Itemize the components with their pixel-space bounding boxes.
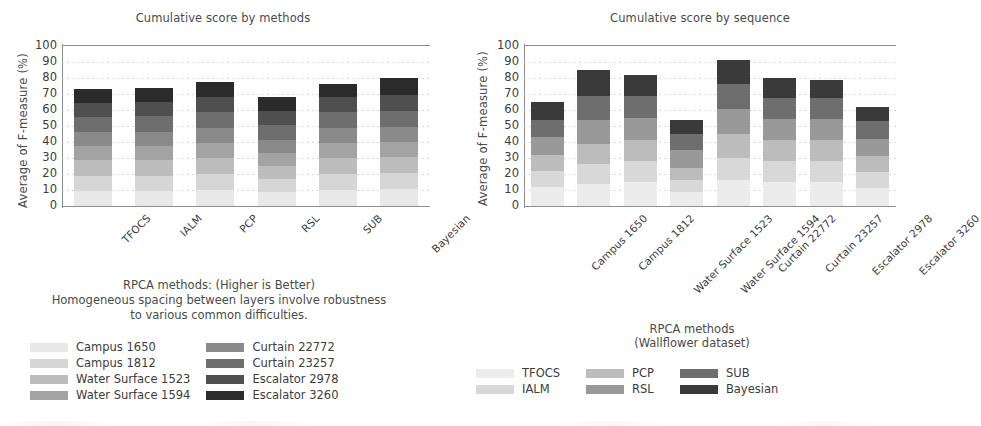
bar-segment: [577, 184, 610, 206]
left-plot-area: 0102030405060708090100TFOCSIALMPCPRSLSUB…: [62, 45, 430, 207]
bar-segment: [856, 172, 889, 188]
bar-segment: [135, 88, 173, 102]
right-y-axis-label: Average of F-measure (%): [476, 51, 490, 206]
legend-item: Water Surface 1594: [30, 388, 190, 402]
x-axis-tick-label: IALM: [177, 212, 204, 239]
y-axis-tick-label: 60: [42, 104, 57, 116]
y-axis-tick-label: 10: [42, 184, 57, 196]
legend-swatch: [206, 375, 244, 384]
bar-segment: [319, 84, 357, 98]
bar-segment: [670, 134, 703, 150]
right-legend-title-line-1: RPCA methods: [542, 322, 842, 336]
gridline: [62, 62, 430, 63]
bar-segment: [380, 189, 418, 206]
bar-segment: [670, 120, 703, 134]
bar-segment: [74, 146, 112, 160]
bar-segment: [135, 176, 173, 191]
bar-ialm: [135, 88, 173, 206]
legend-label: Campus 1650: [76, 340, 156, 354]
bar-segment: [196, 158, 234, 174]
bar-segment: [763, 182, 796, 206]
y-axis-tick-label: 0: [512, 200, 519, 212]
bar-segment: [135, 116, 173, 131]
bar-segment: [258, 179, 296, 193]
bar-segment: [717, 180, 750, 206]
y-axis-tick-label: 0: [50, 200, 57, 212]
legend-label: PCP: [632, 366, 654, 380]
bar-segment: [319, 112, 357, 127]
y-axis-tick-label: 10: [504, 184, 519, 196]
legend-label: Water Surface 1594: [76, 388, 190, 402]
bar-segment: [763, 161, 796, 182]
bar-segment: [258, 166, 296, 179]
bar-segment: [135, 132, 173, 146]
bar-curtain-23257: [763, 78, 796, 206]
legend-item: Curtain 22772: [206, 340, 338, 354]
legend-label: Bayesian: [726, 382, 778, 396]
bar-segment: [258, 97, 296, 111]
y-axis-tick-label: 100: [35, 40, 57, 52]
left-caption-line-1: RPCA methods: (Higher is Better): [24, 278, 414, 293]
bar-segment: [380, 157, 418, 173]
legend-item: Curtain 23257: [206, 356, 338, 370]
bar-segment: [717, 84, 750, 109]
bar-segment: [531, 137, 564, 155]
legend-item: Water Surface 1523: [30, 372, 190, 386]
bar-segment: [717, 60, 750, 84]
bar-curtain-22772: [717, 60, 750, 206]
bar-segment: [624, 118, 657, 140]
y-axis-tick-label: 80: [504, 72, 519, 84]
legend-swatch: [586, 385, 624, 394]
x-axis-tick-label: TFOCS: [119, 212, 152, 245]
bar-segment: [380, 111, 418, 127]
bar-segment: [135, 102, 173, 116]
bar-segment: [74, 89, 112, 103]
gridline: [62, 94, 430, 95]
x-axis-tick-label: Water Surface 1523: [691, 212, 775, 296]
legend-label: RSL: [632, 382, 654, 396]
bar-segment: [74, 176, 112, 191]
legend-item: PCP: [586, 366, 654, 380]
legend-swatch: [206, 359, 244, 368]
page-bottom-artifact: [0, 421, 924, 426]
bar-segment: [531, 187, 564, 206]
bar-segment: [856, 139, 889, 157]
legend-item: Campus 1812: [30, 356, 190, 370]
bar-segment: [531, 155, 564, 171]
gridline: [62, 78, 430, 79]
y-axis-tick-label: 60: [504, 104, 519, 116]
bar-segment: [319, 128, 357, 143]
legend-swatch: [30, 375, 68, 384]
left-chart-title: Cumulative score by methods: [8, 11, 438, 25]
left-y-axis-label: Average of F-measure (%): [16, 53, 30, 208]
bar-segment: [258, 140, 296, 154]
y-axis-tick-label: 80: [42, 72, 57, 84]
bar-segment: [380, 95, 418, 111]
right-axis-bottom: [524, 206, 896, 207]
bar-segment: [74, 117, 112, 131]
right-legend: TFOCSPCPSUBIALMRSLBayesian: [476, 366, 778, 396]
bar-segment: [810, 140, 843, 162]
legend-label: TFOCS: [522, 366, 560, 380]
y-axis-tick-label: 70: [42, 88, 57, 100]
bar-segment: [810, 98, 843, 119]
bar-segment: [135, 191, 173, 206]
bar-segment: [319, 158, 357, 174]
bar-segment: [717, 158, 750, 180]
bar-segment: [624, 96, 657, 118]
gridline: [62, 174, 430, 175]
bar-segment: [577, 144, 610, 165]
bar-segment: [135, 146, 173, 160]
bar-segment: [624, 161, 657, 182]
y-axis-tick-label: 50: [504, 120, 519, 132]
legend-item: Campus 1650: [30, 340, 190, 354]
bar-segment: [196, 82, 234, 97]
x-axis-tick-label: PCP: [237, 212, 260, 235]
x-axis-tick-label: SUB: [360, 212, 384, 236]
gridline: [62, 142, 430, 143]
legend-label: SUB: [726, 366, 750, 380]
bar-segment: [74, 103, 112, 117]
bar-segment: [380, 142, 418, 157]
bar-segment: [717, 134, 750, 158]
bar-segment: [856, 107, 889, 121]
